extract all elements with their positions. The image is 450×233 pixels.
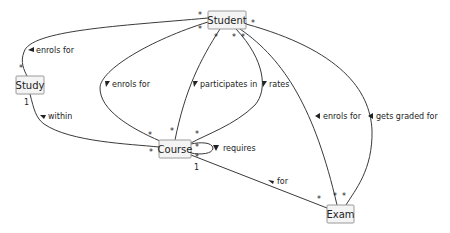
svg-text:enrols for: enrols for: [36, 46, 75, 55]
mult-study-top: *: [19, 64, 23, 73]
mult-student-study-from: *: [198, 11, 202, 20]
label-student-exam-enrols: enrols for: [315, 112, 362, 121]
mult-study-within-from: 1: [24, 98, 29, 107]
label-student-course-enrols: enrols for: [105, 80, 151, 89]
node-exam-label: Exam: [326, 209, 354, 220]
mult-course-rates-to: *: [195, 130, 199, 139]
direction-arrow-icon: [105, 81, 110, 87]
svg-text:gets graded for: gets graded for: [376, 112, 438, 121]
node-student-label: Student: [207, 15, 246, 26]
svg-text:participates in: participates in: [200, 80, 257, 89]
svg-text:rates: rates: [269, 80, 289, 89]
node-course-label: Course: [158, 144, 193, 155]
node-course[interactable]: Course: [158, 140, 193, 158]
mult-course-within-to: *: [149, 148, 153, 157]
svg-text:for: for: [277, 177, 289, 186]
svg-text:requires: requires: [223, 144, 256, 153]
mult-course-enrols-to: *: [148, 131, 152, 140]
direction-arrow-icon: [28, 47, 34, 52]
node-student[interactable]: Student: [207, 11, 246, 29]
svg-text:enrols for: enrols for: [112, 80, 151, 89]
label-course-exam: for: [268, 177, 289, 186]
edge-course-exam: [191, 155, 327, 208]
label-student-exam-graded: gets graded for: [368, 112, 438, 121]
mult-student-rates-from: *: [232, 33, 236, 42]
mult-exam-enrols-to: *: [333, 192, 337, 201]
direction-arrow-icon: [40, 115, 46, 119]
label-course-requires: requires: [213, 144, 256, 153]
mult-course-participates-to: *: [170, 127, 174, 136]
mult-student-right: *: [251, 19, 255, 28]
direction-arrow-icon: [315, 113, 320, 119]
class-diagram: Student Study Course Exam enrols for wit…: [0, 0, 450, 233]
label-student-course-rates: rates: [262, 80, 289, 89]
mult-exam-graded-to: *: [342, 192, 346, 201]
mult-student-exam-from: *: [241, 33, 245, 42]
svg-text:enrols for: enrols for: [323, 112, 362, 121]
node-study-label: Study: [16, 80, 45, 91]
label-study-course: within: [40, 112, 72, 121]
svg-text:within: within: [48, 112, 72, 121]
node-exam[interactable]: Exam: [326, 205, 354, 223]
direction-arrow-icon: [193, 81, 198, 87]
mult-course-requires-2: *: [195, 153, 199, 162]
node-study[interactable]: Study: [16, 76, 45, 94]
mult-course-exam-from: 1: [194, 163, 199, 172]
label-student-study: enrols for: [28, 46, 75, 55]
mult-student-participates-from: *: [214, 33, 218, 42]
mult-student-course-enrols-from: *: [198, 25, 202, 34]
mult-exam-for-to: *: [317, 195, 321, 204]
direction-arrow-icon: [268, 180, 274, 184]
direction-arrow-icon: [213, 145, 219, 151]
label-student-course-participates: participates in: [193, 80, 257, 89]
mult-course-requires: *: [195, 143, 199, 152]
